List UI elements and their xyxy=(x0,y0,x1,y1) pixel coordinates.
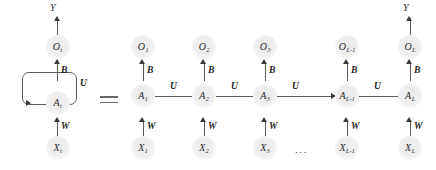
unrolled-u-line-1-2 xyxy=(155,96,196,97)
unrolled-hidden-node-l-label: AL xyxy=(405,91,415,101)
unrolled-y-arrowhead xyxy=(406,16,412,21)
unrolled-output-node-3-label: O3 xyxy=(260,42,271,52)
unrolled-output-node-l: OL xyxy=(398,35,422,59)
folded-w-arrowhead xyxy=(54,117,60,122)
equals-sign xyxy=(100,96,118,103)
unrolled-output-node-2-label: O2 xyxy=(199,42,210,52)
unrolled-weight-u-label-lminus1-l: U xyxy=(374,82,381,92)
unrolled-weight-w-label-3: W xyxy=(269,122,277,132)
unrolled-b-arrowhead-3 xyxy=(261,59,267,64)
unrolled-ellipsis: ... xyxy=(295,144,308,155)
unrolled-output-node-1-label: O1 xyxy=(138,42,149,52)
unrolled-hidden-node-1: A1 xyxy=(131,84,155,108)
folded-output-node: Ot xyxy=(46,35,70,59)
unrolled-output-y-label: Y xyxy=(403,3,409,13)
unrolled-input-node-2: X2 xyxy=(192,136,216,160)
unrolled-b-arrowhead-l xyxy=(406,59,412,64)
folded-y-arrowhead xyxy=(54,16,60,21)
unrolled-output-node-3: O3 xyxy=(253,35,277,59)
folded-weight-w-label: W xyxy=(61,122,69,132)
unrolled-input-node-3: X3 xyxy=(253,136,277,160)
unrolled-input-node-3-label: X3 xyxy=(260,143,270,153)
unrolled-weight-w-label-l-minus-1: W xyxy=(351,122,359,132)
unrolled-output-node-l-label: OL xyxy=(405,42,416,52)
unrolled-output-node-l-minus-1-label: OL-1 xyxy=(339,42,355,52)
unrolled-weight-b-label-l: B xyxy=(414,66,420,76)
unrolled-w-arrowhead-l-minus-1 xyxy=(343,117,349,122)
unrolled-w-line-2 xyxy=(204,120,205,137)
unrolled-hidden-node-3-label: A3 xyxy=(260,91,270,101)
unrolled-b-line-l xyxy=(410,62,411,81)
unrolled-weight-b-label-3: B xyxy=(269,66,275,76)
unrolled-u-line-lminus1-l xyxy=(359,96,400,97)
unrolled-b-line-2 xyxy=(204,62,205,81)
unrolled-weight-u-label-1-2: U xyxy=(170,82,177,92)
unrolled-b-line-3 xyxy=(265,62,266,81)
unrolled-hidden-node-3: A3 xyxy=(253,84,277,108)
unrolled-output-node-l-minus-1: OL-1 xyxy=(335,35,359,59)
unrolled-b-line-1 xyxy=(143,62,144,81)
unrolled-input-node-1: X1 xyxy=(131,136,155,160)
unrolled-w-line-l-minus-1 xyxy=(347,120,348,137)
folded-output-y-label: Y xyxy=(50,3,56,13)
unrolled-u-line-2-3 xyxy=(216,96,257,97)
folded-recurrent-loop-arrowhead xyxy=(26,100,31,106)
unrolled-weight-b-label-2: B xyxy=(208,66,214,76)
unrolled-hidden-node-1-label: A1 xyxy=(138,91,148,101)
unrolled-w-arrowhead-3 xyxy=(261,117,267,122)
unrolled-weight-w-label-2: W xyxy=(208,122,216,132)
unrolled-weight-w-label-l: W xyxy=(414,122,422,132)
unrolled-input-node-2-label: X2 xyxy=(199,143,209,153)
unrolled-u-line-3-lminus1 xyxy=(277,96,333,97)
unrolled-input-node-1-label: X1 xyxy=(138,143,148,153)
unrolled-weight-u-label-3-lminus1: U xyxy=(292,82,299,92)
unrolled-output-node-2: O2 xyxy=(192,35,216,59)
unrolled-w-arrowhead-2 xyxy=(200,117,206,122)
unrolled-weight-b-label-l-minus-1: B xyxy=(351,66,357,76)
unrolled-w-line-l xyxy=(410,120,411,137)
unrolled-hidden-node-2: A2 xyxy=(192,84,216,108)
folded-output-node-label: Ot xyxy=(53,42,62,52)
unrolled-hidden-node-l-minus-1: AL-1 xyxy=(335,84,359,108)
rnn-unrolling-diagram: Y Ot B U At W Xt xyxy=(0,0,436,170)
folded-weight-b-label: B xyxy=(61,66,67,76)
folded-input-node-label: Xt xyxy=(53,143,61,153)
unrolled-weight-u-label-2-3: U xyxy=(231,82,238,92)
folded-w-line xyxy=(57,120,58,137)
unrolled-input-node-l: XL xyxy=(398,136,422,160)
folded-hidden-node-label: At xyxy=(53,98,61,108)
unrolled-weight-b-label-1: B xyxy=(147,66,153,76)
unrolled-hidden-node-2-label: A2 xyxy=(199,91,209,101)
unrolled-hidden-node-l-minus-1-label: AL-1 xyxy=(339,91,354,101)
unrolled-hidden-node-l: AL xyxy=(398,84,422,108)
unrolled-w-arrowhead-1 xyxy=(139,117,145,122)
folded-hidden-node: At xyxy=(46,91,70,115)
unrolled-b-line-l-minus-1 xyxy=(347,62,348,81)
unrolled-b-arrowhead-2 xyxy=(200,59,206,64)
unrolled-b-arrowhead-1 xyxy=(139,59,145,64)
unrolled-input-node-l-minus-1: XL-1 xyxy=(335,136,359,160)
folded-weight-u-label: U xyxy=(80,79,87,89)
unrolled-w-arrowhead-l xyxy=(406,117,412,122)
folded-b-arrowhead xyxy=(54,59,60,64)
unrolled-b-arrowhead-l-minus-1 xyxy=(343,59,349,64)
unrolled-input-node-l-label: XL xyxy=(405,143,415,153)
unrolled-w-line-1 xyxy=(143,120,144,137)
folded-input-node: Xt xyxy=(46,136,70,160)
unrolled-weight-w-label-1: W xyxy=(147,122,155,132)
unrolled-output-node-1: O1 xyxy=(131,35,155,59)
unrolled-input-node-l-minus-1-label: XL-1 xyxy=(339,143,354,153)
unrolled-w-line-3 xyxy=(265,120,266,137)
